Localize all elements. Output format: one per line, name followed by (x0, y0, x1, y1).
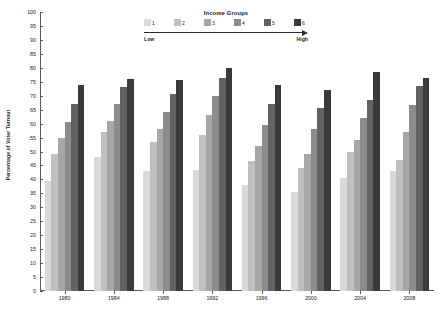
x-axis-tick-label: 1996 (242, 295, 282, 301)
y-axis-tick-label: 55 (14, 134, 40, 142)
y-axis-tick-label: 25 (14, 217, 40, 225)
arrow-line (144, 32, 302, 33)
x-axis-tick-label: 1980 (45, 295, 85, 301)
legend-item-label: 1 (152, 20, 155, 26)
bar (373, 72, 380, 291)
bar (163, 112, 170, 291)
legend-item[interactable]: 6 (294, 19, 305, 26)
legend-item-label: 5 (272, 20, 275, 26)
y-axis-tick-mark (40, 68, 43, 69)
bar-group (94, 12, 133, 291)
y-axis-tick-mark (40, 221, 43, 222)
bar (114, 104, 121, 291)
y-axis-title: Percentage of Voter Turnout (2, 0, 14, 290)
y-axis-tick-label: 40 (14, 175, 40, 183)
y-axis-tick-mark (40, 54, 43, 55)
legend-item-label: 2 (182, 20, 185, 26)
bar (212, 96, 219, 291)
y-axis-tick-mark (40, 82, 43, 83)
x-axis-tick-label: 2000 (291, 295, 331, 301)
bar (324, 90, 331, 291)
y-axis-tick-label: 85 (14, 50, 40, 58)
legend-title: Income Groups (140, 10, 312, 16)
y-axis-tick-label: 5 (14, 273, 40, 281)
y-axis-tick-label: 20 (14, 231, 40, 239)
bar (360, 118, 367, 291)
y-axis-tick-label: 80 (14, 64, 40, 72)
legend-item[interactable]: 2 (174, 19, 185, 26)
y-axis-tick-label: 95 (14, 22, 40, 30)
x-axis-tick-mark (212, 291, 213, 294)
y-axis-tick-label: 65 (14, 106, 40, 114)
legend-endpoints: Low High (140, 36, 312, 44)
bar-group (193, 12, 232, 291)
legend-item-label: 6 (302, 20, 305, 26)
bar (65, 122, 72, 291)
y-axis-tick-mark (40, 249, 43, 250)
x-axis-tick-mark (163, 291, 164, 294)
bar (275, 85, 282, 291)
y-axis-tick-mark (40, 165, 43, 166)
x-axis-tick-mark (311, 291, 312, 294)
legend-item[interactable]: 3 (204, 19, 215, 26)
bar-group (291, 12, 330, 291)
x-axis-tick-mark (262, 291, 263, 294)
voter-turnout-bar-chart: Percentage of Voter Turnout 100959085807… (0, 0, 443, 318)
y-axis-tick-mark (40, 96, 43, 97)
bar-group (340, 12, 379, 291)
y-axis-tick-label: 30 (14, 203, 40, 211)
plot-area: 1009590858075706560555045403530252015105… (40, 12, 434, 291)
y-axis-tick-label: 45 (14, 161, 40, 169)
y-axis-tick-mark (40, 179, 43, 180)
x-axis-tick-mark (360, 291, 361, 294)
bar (409, 105, 416, 291)
y-axis-tick-label: 15 (14, 245, 40, 253)
bar-group (242, 12, 281, 291)
bar (262, 125, 269, 291)
legend-item[interactable]: 5 (264, 19, 275, 26)
y-axis-tick-label: 50 (14, 148, 40, 156)
legend-item[interactable]: 1 (144, 19, 155, 26)
legend-item-label: 4 (242, 20, 245, 26)
y-axis-tick-label: 90 (14, 36, 40, 44)
y-axis-tick-mark (40, 193, 43, 194)
y-axis-tick-mark (40, 263, 43, 264)
x-axis-tick-label: 1984 (94, 295, 134, 301)
bar (127, 79, 134, 291)
y-axis-title-text: Percentage of Voter Turnout (5, 110, 11, 181)
x-axis-tick-label: 1988 (143, 295, 183, 301)
y-axis-tick-mark (40, 152, 43, 153)
y-axis-tick-mark (40, 124, 43, 125)
x-axis-tick-mark (65, 291, 66, 294)
y-axis-tick-mark (40, 40, 43, 41)
y-axis-tick-label: 75 (14, 78, 40, 86)
y-axis-tick-mark (40, 12, 43, 13)
legend-low-label: Low (144, 36, 154, 42)
y-axis-tick-mark (40, 277, 43, 278)
y-axis-tick-label: 100 (14, 8, 40, 16)
legend: Income Groups 123456 Low High (140, 10, 312, 44)
x-axis-tick-mark (114, 291, 115, 294)
y-axis-tick-label: 70 (14, 92, 40, 100)
legend-gradient-arrow (140, 29, 312, 36)
y-axis-tick-mark (40, 235, 43, 236)
legend-items: 123456 (140, 19, 312, 28)
legend-swatch-icon (264, 19, 271, 26)
x-axis-tick-label: 1992 (192, 295, 232, 301)
legend-swatch-icon (294, 19, 301, 26)
y-axis-tick-mark (40, 207, 43, 208)
bar-group (143, 12, 182, 291)
legend-swatch-icon (204, 19, 211, 26)
y-axis-tick-label: 0 (14, 287, 40, 295)
legend-item[interactable]: 4 (234, 19, 245, 26)
legend-swatch-icon (174, 19, 181, 26)
bar (423, 78, 430, 291)
bar (78, 85, 85, 291)
bar (226, 68, 233, 291)
arrow-head-icon (302, 30, 308, 36)
y-axis-tick-label: 35 (14, 189, 40, 197)
x-axis-tick-mark (409, 291, 410, 294)
x-axis-tick-label: 2008 (389, 295, 429, 301)
bar-group (45, 12, 84, 291)
y-axis-tick-mark (40, 138, 43, 139)
